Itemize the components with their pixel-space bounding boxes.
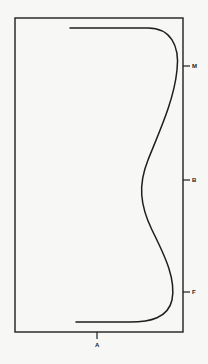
marker-label-f: F [192,289,196,295]
marker-label-m: M [192,63,197,69]
marker-label-a: A [95,342,99,348]
profile-diagram [0,0,208,364]
marker-label-b: B [192,177,196,183]
right-marker-ticks [183,66,190,292]
profile-curve [70,28,178,322]
diagram-frame [15,18,183,332]
